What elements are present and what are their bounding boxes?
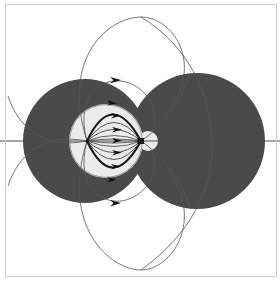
dipole-field-diagram (0, 0, 280, 281)
right-focus-point (138, 138, 145, 144)
left-focus-point (85, 139, 88, 142)
figure-root (0, 0, 280, 281)
